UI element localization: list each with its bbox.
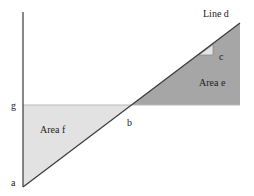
- label-b: b: [127, 117, 132, 128]
- label-c: c: [219, 51, 224, 62]
- slope-triangle-c: [199, 45, 213, 56]
- label-line-d: Line d: [203, 8, 229, 19]
- label-area-f: Area f: [40, 124, 66, 135]
- label-a: a: [11, 177, 16, 188]
- label-area-e: Area e: [199, 77, 226, 88]
- diagram: Line d c Area e Area f g b a: [0, 0, 254, 196]
- label-g: g: [11, 100, 16, 111]
